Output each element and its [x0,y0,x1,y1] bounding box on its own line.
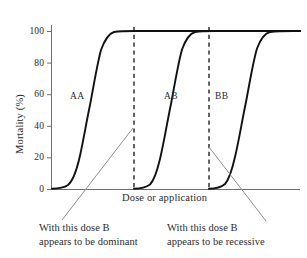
y-tick-label-0: 0 [16,184,44,195]
y-axis-title: Mortality (%) [14,94,26,154]
curve-label-bb: BB [215,91,228,102]
y-tick-label-100: 100 [16,26,44,37]
annotation-dominant-line2: appears to be dominant [39,236,138,248]
annotation-recessive-line2: appears to be recessive [167,236,265,248]
reference-lines [134,27,209,189]
annotation-recessive-line1: With this dose B [167,222,238,234]
curve-label-ab: AB [164,91,178,102]
curve-label-aa: AA [70,91,85,102]
leader-line-dominant [62,128,133,220]
leader-line-recessive [209,147,266,221]
annotation-dominant-line1: With this dose B [39,222,110,234]
curve-aa [52,31,300,189]
x-axis-title: Dose or application [122,192,207,204]
y-tick-label-80: 80 [16,58,44,69]
curve-ab [134,31,300,189]
mortality-curves [52,31,300,189]
y-axis-ticks [47,32,52,190]
plot-area [0,0,307,258]
dose-response-figure: 100 80 60 40 20 0 Mortality (%) Dose or … [0,0,307,258]
